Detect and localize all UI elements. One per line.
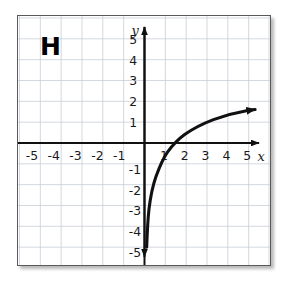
x-tick-label: 5 bbox=[243, 148, 251, 163]
y-tick-label: 1 bbox=[129, 115, 137, 130]
y-axis-label: y bbox=[130, 23, 139, 38]
y-tick-label: 2 bbox=[129, 94, 137, 109]
y-tick-label: -2 bbox=[129, 183, 141, 198]
y-tick-labels: 5 4 3 2 1 -1 -2 -3 -4 -5 bbox=[129, 32, 141, 260]
y-tick-label: -1 bbox=[129, 162, 141, 177]
plot-frame: -5 -4 -3 -2 -1 1 2 3 4 5 5 4 3 2 1 -1 -2… bbox=[17, 15, 271, 266]
x-tick-label: -3 bbox=[69, 148, 81, 163]
y-tick-label: -3 bbox=[129, 203, 141, 218]
x-tick-label: -1 bbox=[113, 148, 125, 163]
x-tick-label: -2 bbox=[91, 148, 103, 163]
y-tick-label: -4 bbox=[129, 224, 141, 239]
x-tick-label: 2 bbox=[181, 148, 189, 163]
x-tick-labels: -5 -4 -3 -2 -1 1 2 3 4 5 bbox=[26, 148, 251, 163]
x-axis-label: x bbox=[257, 149, 265, 164]
y-tick-label: 4 bbox=[129, 53, 137, 68]
y-tick-label: 3 bbox=[129, 73, 137, 88]
x-tick-label: -4 bbox=[48, 148, 60, 163]
panel-label: H bbox=[40, 34, 61, 59]
y-tick-label: -5 bbox=[129, 245, 141, 260]
x-tick-label: 3 bbox=[202, 148, 210, 163]
x-tick-label: -5 bbox=[26, 148, 38, 163]
figure-container: -5 -4 -3 -2 -1 1 2 3 4 5 5 4 3 2 1 -1 -2… bbox=[0, 0, 289, 285]
x-tick-label: 4 bbox=[222, 148, 230, 163]
